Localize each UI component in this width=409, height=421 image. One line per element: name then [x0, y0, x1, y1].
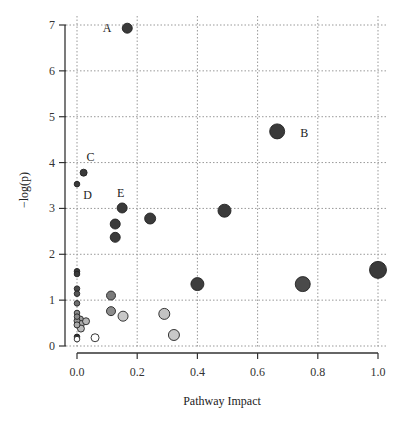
annotation-d: D — [83, 188, 92, 202]
y-tick-label: 2 — [49, 247, 55, 261]
data-point — [295, 277, 310, 292]
data-point — [191, 278, 204, 291]
annotation-b: B — [300, 126, 308, 140]
data-point — [91, 334, 99, 342]
data-point — [118, 311, 128, 321]
data-point — [107, 291, 116, 300]
data-point-d — [74, 181, 80, 187]
annotation-e: E — [117, 186, 124, 200]
x-tick-label: 0.4 — [190, 365, 205, 379]
x-tick-label: 1.0 — [371, 365, 386, 379]
y-tick-label: 3 — [49, 201, 55, 215]
data-point — [110, 232, 120, 242]
x-tick-label: 0.6 — [250, 365, 265, 379]
data-point-e — [117, 203, 127, 213]
y-axis-title: −log(p) — [17, 172, 31, 208]
data-point — [218, 204, 231, 217]
y-tick-label: 4 — [49, 156, 55, 170]
data-point — [74, 314, 80, 320]
data-point — [83, 318, 90, 325]
data-point — [145, 213, 156, 224]
point-annotations: ABCDE — [83, 21, 308, 201]
data-point-a — [122, 23, 132, 33]
y-tick-label: 5 — [49, 110, 55, 124]
data-point — [110, 219, 120, 229]
data-point — [74, 301, 80, 307]
x-tick-label: 0.8 — [310, 365, 325, 379]
y-tick-label: 6 — [49, 64, 55, 78]
data-point — [74, 291, 80, 297]
y-tick-label: 0 — [49, 339, 55, 353]
pathway-impact-scatter-chart: 012345670.00.20.40.60.81.0 ABCDE Pathway… — [0, 0, 409, 421]
data-point — [107, 307, 116, 316]
x-axis-title: Pathway Impact — [183, 394, 261, 408]
data-point — [74, 271, 80, 277]
data-point — [370, 261, 387, 278]
data-point — [74, 322, 80, 328]
y-tick-label: 1 — [49, 293, 55, 307]
x-tick-label: 0.0 — [70, 365, 85, 379]
annotation-c: C — [87, 150, 95, 164]
axes: 012345670.00.20.40.60.81.0 — [49, 18, 386, 379]
y-tick-label: 7 — [49, 18, 55, 32]
annotation-a: A — [103, 21, 112, 35]
x-tick-label: 0.2 — [130, 365, 145, 379]
data-point-c — [80, 169, 87, 176]
data-point — [159, 308, 170, 319]
data-point — [168, 329, 179, 340]
data-point — [74, 336, 80, 342]
data-point-b — [270, 124, 285, 139]
